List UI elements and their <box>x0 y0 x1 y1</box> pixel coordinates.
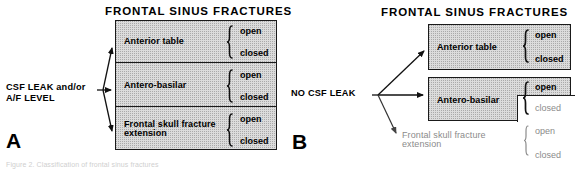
panel-a-arrows <box>97 48 112 131</box>
panel-a-braces <box>227 26 232 146</box>
panel-b-arrows <box>372 51 424 133</box>
figure-frontal-sinus-fracture-classification: FRONTAL SINUS FRACTURES CSF LEAK and/or … <box>0 0 575 169</box>
figure-caption: Figure 2. Classification of frontal sinu… <box>6 161 159 168</box>
connector-overlay <box>0 0 575 169</box>
panel-b-braces <box>523 30 528 155</box>
